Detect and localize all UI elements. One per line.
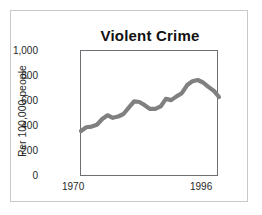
x-axis-tick-1970: 1970: [62, 181, 84, 192]
page-title: Violent Crime: [70, 27, 230, 44]
plot-area: [80, 50, 218, 176]
series-line-violent-crime: [81, 51, 219, 177]
y-axis-tick-1000: 1,000: [0, 45, 38, 56]
y-axis-tick-600: 600: [0, 95, 38, 106]
chart-figure: Violent Crime Per 100,000 people 1,000 8…: [0, 0, 262, 215]
y-axis-tick-0: 0: [0, 170, 38, 181]
y-axis-tick-400: 400: [0, 120, 38, 131]
y-axis-tick-200: 200: [0, 145, 38, 156]
x-axis-tick-1996: 1996: [190, 181, 212, 192]
y-axis-tick-800: 800: [0, 70, 38, 81]
